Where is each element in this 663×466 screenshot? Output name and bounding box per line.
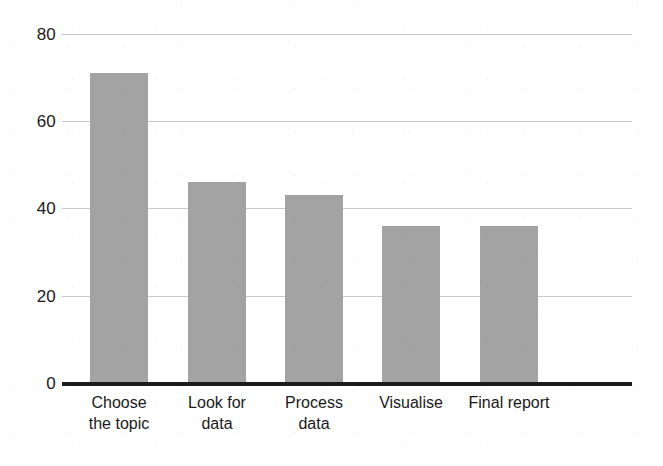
- y-axis: 80 60 40 20 0: [0, 0, 56, 466]
- x-axis-line: [62, 382, 632, 386]
- y-tick-label-20: 20: [10, 288, 56, 305]
- y-tick-label-40: 40: [10, 200, 56, 217]
- x-label-line2: data: [264, 413, 364, 434]
- y-tick-label-0: 0: [10, 375, 56, 392]
- x-axis-labels: Choose the topic Look for data Process d…: [62, 392, 632, 452]
- y-tick-label-60: 60: [10, 113, 56, 130]
- bar-chart: 80 60 40 20 0 Choose the topic Look for …: [0, 0, 663, 466]
- x-label-final-report: Final report: [454, 392, 564, 413]
- x-label-process-data: Process data: [264, 392, 364, 434]
- bar-final-report: [480, 226, 538, 383]
- x-label-line1: Process: [285, 394, 343, 411]
- bar-choose-the-topic: [90, 73, 148, 383]
- bar-process-data: [285, 195, 343, 383]
- x-label-line2: the topic: [69, 413, 169, 434]
- x-label-line1: Final report: [469, 394, 550, 411]
- x-label-visualise: Visualise: [361, 392, 461, 413]
- x-label-line1: Look for: [188, 394, 246, 411]
- x-label-choose-the-topic: Choose the topic: [69, 392, 169, 434]
- x-label-line1: Visualise: [379, 394, 443, 411]
- y-tick-label-80: 80: [10, 26, 56, 43]
- bar-visualise: [382, 226, 440, 383]
- bar-look-for-data: [188, 182, 246, 383]
- bars-layer: [62, 0, 632, 383]
- x-label-look-for-data: Look for data: [167, 392, 267, 434]
- x-label-line1: Choose: [91, 394, 146, 411]
- x-label-line2: data: [167, 413, 267, 434]
